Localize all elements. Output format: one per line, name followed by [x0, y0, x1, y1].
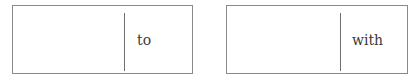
divider-line: [124, 13, 125, 71]
preposition-label-1: to: [137, 30, 151, 50]
divider-line: [340, 13, 341, 71]
blank-answer-area-2[interactable]: [227, 6, 340, 73]
blank-answer-area-1[interactable]: [13, 6, 124, 73]
fill-in-box-2: with: [226, 5, 408, 74]
fill-in-box-1: to: [12, 5, 193, 74]
preposition-label-2: with: [352, 30, 383, 50]
